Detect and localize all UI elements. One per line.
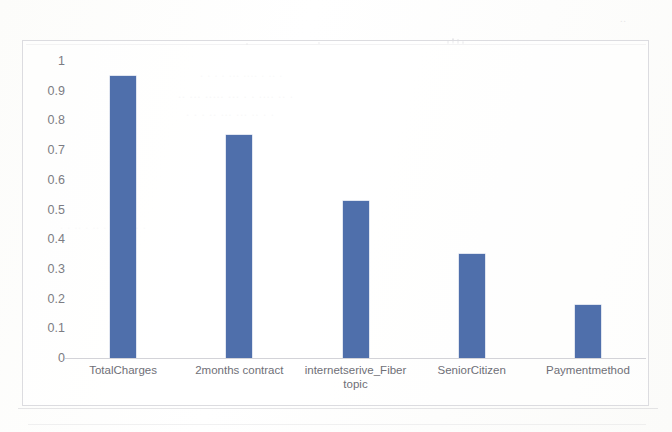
x-axis: TotalCharges 2months contract internetse… xyxy=(65,359,646,401)
bar-internetserive-fiber-topic xyxy=(343,201,369,358)
scanned-page: . . . . ... .... . .. . .. ... ..... ...… xyxy=(0,0,672,432)
bar-totalcharges xyxy=(110,76,136,358)
y-tick-label: 0.9 xyxy=(31,84,65,98)
y-tick-label: 0.4 xyxy=(31,232,65,246)
bar-paymentmethod xyxy=(575,305,601,358)
bar-chart: 1 0.9 0.8 0.7 0.6 0.5 0.4 0.3 0.2 0.1 0 xyxy=(22,40,649,406)
y-tick-label: 1 xyxy=(31,54,65,68)
x-tick-label: TotalCharges xyxy=(65,359,181,377)
x-tick-label: 2months contract xyxy=(181,359,297,377)
x-tick-label: Paymentmethod xyxy=(530,359,646,377)
y-tick-label: 0 xyxy=(31,351,65,365)
bar-2months-contract xyxy=(226,135,252,358)
scan-artifact-line-bottom xyxy=(18,408,658,409)
bar-slot xyxy=(65,61,181,358)
y-tick-label: 0.3 xyxy=(31,262,65,276)
y-tick-label: 0.1 xyxy=(31,321,65,335)
y-tick-label: 0.6 xyxy=(31,173,65,187)
y-axis: 1 0.9 0.8 0.7 0.6 0.5 0.4 0.3 0.2 0.1 0 xyxy=(23,41,65,407)
x-tick-label: internetserive_Fiber topic xyxy=(297,359,413,391)
bar-seniorcitizen xyxy=(459,254,485,358)
bar-slot xyxy=(414,61,530,358)
y-tick-label: 0.2 xyxy=(31,292,65,306)
y-tick-label: 0.8 xyxy=(31,113,65,127)
bar-series xyxy=(65,61,646,358)
y-tick-label: 0.5 xyxy=(31,203,65,217)
bar-slot xyxy=(181,61,297,358)
bar-slot xyxy=(530,61,646,358)
scan-artifact-line-lower xyxy=(28,424,646,425)
scan-artifact-text-e: .. xyxy=(620,12,627,24)
x-tick-label: SeniorCitizen xyxy=(414,359,530,377)
y-tick-label: 0.7 xyxy=(31,143,65,157)
bar-slot xyxy=(297,61,413,358)
plot-area: 1 0.9 0.8 0.7 0.6 0.5 0.4 0.3 0.2 0.1 0 xyxy=(23,41,650,407)
